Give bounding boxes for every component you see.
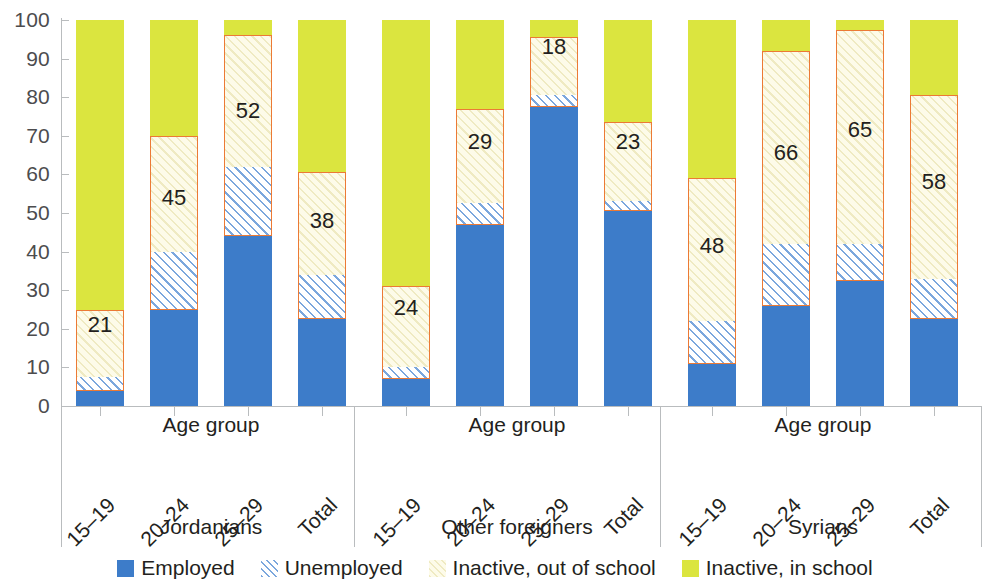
bar-segment-employed: [382, 379, 430, 406]
group-separator: [660, 407, 661, 547]
stacked-bar: 29: [456, 20, 504, 406]
bar-segment-unemployed: [382, 367, 430, 379]
bar-segment-unemployed: [762, 244, 810, 306]
bar-value-label: 23: [604, 129, 652, 155]
bar-segment-unemployed: [298, 275, 346, 319]
bar-segment-employed: [836, 281, 884, 406]
y-tick-mark: [62, 329, 69, 330]
bar-value-label: 65: [836, 117, 884, 143]
legend-item: Inactive, in school: [682, 556, 873, 580]
group-separator: [61, 407, 62, 547]
bar-segment-employed: [224, 236, 272, 406]
bar-segment-employed: [298, 319, 346, 406]
y-tick-label: 40: [26, 240, 50, 264]
bar-segment-inactive-in-school: [762, 20, 810, 51]
legend-label: Unemployed: [285, 556, 403, 580]
group-name-label: Syrians: [788, 515, 858, 539]
y-tick-label: 100: [14, 8, 50, 32]
y-tick-label: 70: [26, 124, 50, 148]
bar-value-label: 29: [456, 129, 504, 155]
bar-segment-inactive-in-school: [604, 20, 652, 122]
bar-segment-inactive-in-school: [910, 20, 958, 95]
bar-segment-unemployed: [530, 95, 578, 107]
axis-title-age-group: Age group: [775, 413, 872, 437]
x-tick-mark: [860, 407, 861, 416]
legend-label: Employed: [141, 556, 234, 580]
y-tick-label: 50: [26, 201, 50, 225]
bar-value-label: 24: [382, 295, 430, 321]
bar-segment-unemployed: [150, 252, 198, 310]
bar-segment-unemployed: [76, 377, 124, 391]
bar-segment-inactive-in-school: [456, 20, 504, 109]
stacked-bar: 66: [762, 20, 810, 406]
y-axis-labels: 0102030405060708090100: [0, 0, 58, 426]
bar-segment-unemployed: [688, 321, 736, 363]
y-tick-mark: [62, 367, 69, 368]
legend-item: Employed: [117, 556, 234, 580]
bar-value-label: 52: [224, 98, 272, 124]
bar-segment-inactive-in-school: [836, 20, 884, 30]
y-tick-mark: [62, 252, 69, 253]
group-name-label: Other foreigners: [441, 515, 593, 539]
bar-segment-unemployed: [910, 279, 958, 320]
x-tick-mark: [406, 407, 407, 416]
legend-swatch-icon: [117, 560, 134, 577]
y-tick-mark: [62, 174, 69, 175]
y-tick-label: 10: [26, 355, 50, 379]
stacked-bar: 21: [76, 20, 124, 406]
bar-segment-inactive-in-school: [298, 20, 346, 172]
bar-segment-employed: [910, 319, 958, 406]
group-name-label: Jordanians: [160, 515, 263, 539]
bar-segment-employed: [762, 306, 810, 406]
bar-segment-unemployed: [456, 203, 504, 224]
bar-segment-unemployed: [604, 201, 652, 211]
bar-segment-employed: [604, 211, 652, 406]
x-tick-mark: [786, 407, 787, 416]
bar-value-label: 45: [150, 185, 198, 211]
y-tick-mark: [62, 406, 69, 407]
x-tick-mark: [100, 407, 101, 416]
axis-title-age-group: Age group: [163, 413, 260, 437]
bar-segment-inactive-in-school: [688, 20, 736, 178]
chart-root: 0102030405060708090100 21455238242918234…: [0, 0, 990, 587]
group-separator: [981, 407, 982, 547]
stacked-bar: 18: [530, 20, 578, 406]
stacked-bar: 45: [150, 20, 198, 406]
x-tick-mark: [322, 407, 323, 416]
chart-legend: EmployedUnemployedInactive, out of schoo…: [0, 556, 990, 580]
bar-value-label: 66: [762, 140, 810, 166]
y-tick-mark: [62, 59, 69, 60]
x-tick-mark: [248, 407, 249, 416]
stacked-bar: 24: [382, 20, 430, 406]
y-tick-label: 30: [26, 278, 50, 302]
bar-value-label: 48: [688, 233, 736, 259]
legend-swatch-icon: [261, 560, 278, 577]
y-tick-mark: [62, 97, 69, 98]
bar-segment-employed: [76, 391, 124, 406]
bar-segment-employed: [530, 107, 578, 406]
stacked-bar: 52: [224, 20, 272, 406]
axis-title-age-group: Age group: [469, 413, 566, 437]
x-tick-mark: [934, 407, 935, 416]
legend-swatch-icon: [682, 560, 699, 577]
bar-segment-inactive-in-school: [382, 20, 430, 286]
bar-value-label: 58: [910, 169, 958, 195]
stacked-bar: 48: [688, 20, 736, 406]
x-tick-mark: [712, 407, 713, 416]
plot-area: 214552382429182348666558: [62, 20, 982, 406]
bar-value-label: 38: [298, 208, 346, 234]
bar-segment-inactive-in-school: [76, 20, 124, 310]
x-tick-mark: [480, 407, 481, 416]
y-tick-mark: [62, 136, 69, 137]
bar-segment-unemployed: [836, 244, 884, 281]
bar-value-label: 21: [76, 312, 124, 338]
stacked-bar: 38: [298, 20, 346, 406]
y-tick-mark: [62, 290, 69, 291]
stacked-bar: 65: [836, 20, 884, 406]
legend-item: Unemployed: [261, 556, 403, 580]
bar-segment-employed: [150, 310, 198, 407]
y-tick-label: 20: [26, 317, 50, 341]
x-tick-mark: [554, 407, 555, 416]
bar-segment-employed: [456, 225, 504, 406]
bar-segment-employed: [688, 364, 736, 406]
